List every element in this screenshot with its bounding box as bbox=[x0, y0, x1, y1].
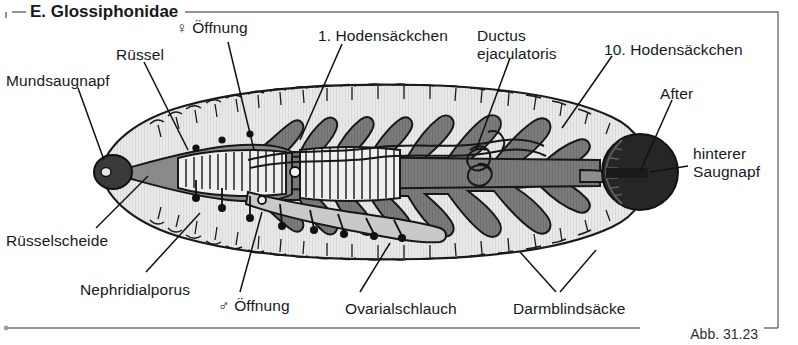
leader-mundsaugnapf bbox=[78, 88, 104, 160]
figure-number: Abb. 31.23 bbox=[684, 326, 764, 342]
leader-darmblindsaecke-a bbox=[520, 252, 556, 292]
label-erstes-hodensaeckchen: 1. Hodensäckchen bbox=[318, 27, 448, 45]
label-weibliche-oeffnung: ♀ Öffnung bbox=[176, 19, 248, 37]
section-title: E. Glossiphonidae bbox=[26, 2, 185, 22]
label-ductus-ejaculatoris: Ductus ejaculatoris bbox=[477, 27, 557, 64]
label-mundsaugnapf: Mundsaugnapf bbox=[6, 72, 110, 90]
label-darmblindsaecke: Darmblindsäcke bbox=[513, 300, 626, 318]
leader-darmblindsaecke-b bbox=[560, 250, 596, 292]
label-maennliche-oeffnung: ♂ Öffnung bbox=[218, 297, 290, 315]
label-ruessel: Rüssel bbox=[116, 46, 164, 64]
pharynx-body bbox=[300, 147, 400, 201]
label-after: After bbox=[660, 85, 693, 103]
figure-container: E. Glossiphonidae Abb. 31.23 Mundsaugnap… bbox=[0, 0, 798, 345]
label-hinterer-saugnapf: hinterer Saugnapf bbox=[693, 145, 760, 182]
label-zehntes-hodensaeckchen: 10. Hodensäckchen bbox=[604, 41, 743, 59]
label-ruesselscheide: Rüsselscheide bbox=[6, 232, 108, 250]
label-ovarialschlauch: Ovarialschlauch bbox=[345, 300, 457, 318]
muscular-pharynx bbox=[300, 147, 400, 201]
oral-sucker bbox=[94, 155, 132, 189]
label-nephridialporus: Nephridialporus bbox=[80, 281, 190, 299]
